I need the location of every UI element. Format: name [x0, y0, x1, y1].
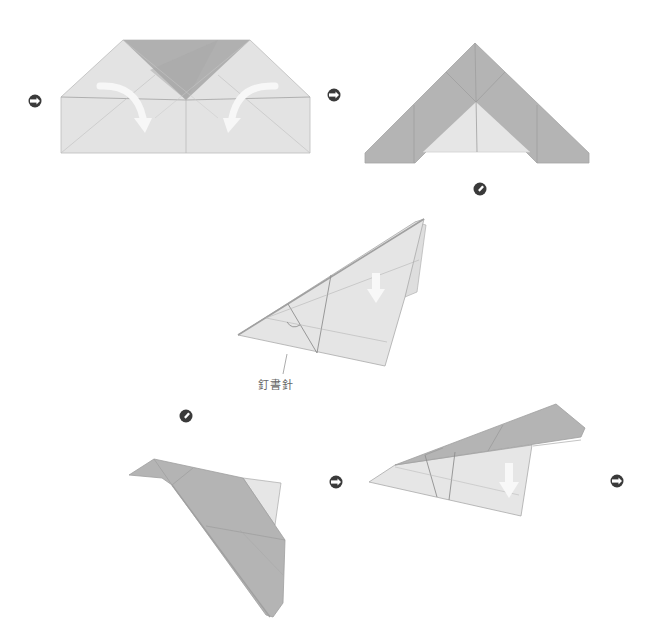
turn-over-icon — [611, 475, 624, 488]
step-5-figure — [369, 404, 585, 516]
origami-diagram — [0, 0, 648, 633]
turn-over-icon — [330, 476, 343, 489]
turn-over-icon — [29, 95, 42, 108]
rotate-icon — [474, 183, 487, 196]
step-1-figure — [61, 40, 310, 153]
step-3-figure — [238, 219, 426, 374]
step-4-figure — [129, 459, 285, 617]
staple-callout-label: 釘書針 — [258, 376, 294, 392]
step-2-figure — [365, 43, 589, 163]
callout-leader-line — [283, 354, 287, 374]
turn-over-icon — [328, 89, 341, 102]
rotate-icon — [180, 410, 193, 423]
